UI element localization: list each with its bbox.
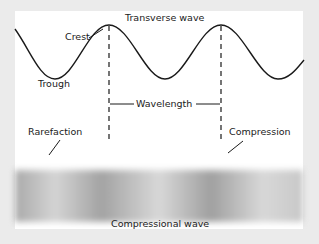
wave-drawing [0,0,319,244]
crest-pointer [89,29,103,38]
compressional-wave-title: Compressional wave [111,219,209,229]
crest-label: Crest [65,32,90,42]
wavelength-label: Wavelength [136,99,192,109]
rarefaction-pointer [49,140,60,155]
rarefaction-label: Rarefaction [28,127,82,137]
trough-label: Trough [38,79,70,89]
transverse-wave-curve [15,25,304,79]
compression-pointer [228,141,243,153]
transverse-wave-title: Transverse wave [125,13,204,23]
compression-label: Compression [229,127,291,137]
